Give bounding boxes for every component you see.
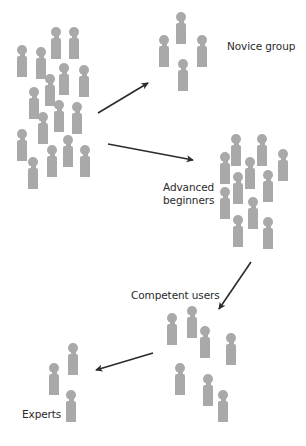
person-body	[233, 226, 243, 247]
person-body	[226, 344, 236, 365]
person-icon	[17, 129, 27, 161]
person-icon	[248, 197, 258, 229]
advanced-beginners-line1: Advanced	[163, 181, 223, 194]
person-body	[263, 228, 273, 249]
person-icon	[80, 145, 90, 177]
experts-label: Experts	[22, 408, 61, 421]
person-icon	[49, 363, 59, 395]
person-icon	[28, 157, 38, 189]
person-icon	[68, 343, 78, 375]
arrow-population-to-advanced	[108, 144, 193, 160]
arrow-advanced-to-competent	[219, 262, 251, 309]
person-icon	[197, 35, 207, 67]
person-icon	[167, 313, 177, 345]
person-icon	[69, 27, 79, 59]
person-body	[187, 317, 197, 338]
advanced-beginners-line2: beginners	[163, 194, 223, 207]
person-body	[79, 76, 89, 97]
person-icon	[66, 390, 76, 422]
person-body	[72, 113, 82, 134]
person-body	[257, 145, 267, 166]
person-icon	[79, 65, 89, 97]
person-body	[233, 183, 243, 204]
person-icon	[175, 363, 185, 395]
person-body	[176, 23, 186, 44]
arrow-population-to-novice	[98, 83, 148, 113]
person-icon	[263, 170, 273, 202]
person-body	[203, 385, 213, 406]
person-icon	[47, 145, 57, 177]
person-icon	[176, 12, 186, 44]
person-icon	[263, 217, 273, 249]
person-body	[17, 56, 27, 77]
person-icon	[63, 135, 73, 167]
person-body	[159, 46, 169, 67]
person-icon	[233, 172, 243, 204]
person-body	[28, 168, 38, 189]
person-body	[66, 401, 76, 422]
person-icon	[54, 100, 64, 132]
arrow-competent-to-experts	[96, 353, 153, 370]
person-icon	[72, 102, 82, 134]
person-body	[178, 70, 188, 91]
person-body	[47, 156, 57, 177]
advanced-beginners-label: Advanced beginners	[163, 181, 223, 207]
person-icon	[200, 326, 210, 358]
person-icon	[59, 63, 69, 95]
person-body	[63, 146, 73, 167]
person-body	[54, 111, 64, 132]
person-icon	[278, 149, 288, 181]
person-body	[69, 38, 79, 59]
person-body	[49, 374, 59, 395]
person-icon	[203, 374, 213, 406]
person-icon	[231, 134, 241, 166]
person-icon	[226, 333, 236, 365]
person-body	[218, 401, 228, 422]
competent-users-label: Competent users	[131, 289, 220, 302]
person-body	[80, 156, 90, 177]
novice-group-label: Novice group	[227, 40, 295, 53]
person-icon	[51, 27, 61, 59]
person-body	[245, 168, 255, 189]
person-icon	[187, 306, 197, 338]
person-icon	[38, 112, 48, 144]
person-body	[263, 181, 273, 202]
person-icon	[233, 215, 243, 247]
person-body	[167, 324, 177, 345]
person-icon	[257, 134, 267, 166]
person-body	[231, 145, 241, 166]
person-body	[175, 374, 185, 395]
person-body	[248, 208, 258, 229]
person-body	[197, 46, 207, 67]
person-body	[38, 123, 48, 144]
person-body	[17, 140, 27, 161]
person-icon	[220, 152, 230, 184]
person-body	[200, 337, 210, 358]
person-body	[278, 160, 288, 181]
person-icon	[178, 59, 188, 91]
person-icon	[17, 45, 27, 77]
person-body	[59, 74, 69, 95]
person-icon	[159, 35, 169, 67]
person-body	[68, 354, 78, 375]
diagram-canvas: Novice group Advanced beginners Competen…	[0, 0, 306, 446]
person-icon	[245, 157, 255, 189]
person-icon	[218, 390, 228, 422]
person-body	[51, 38, 61, 59]
